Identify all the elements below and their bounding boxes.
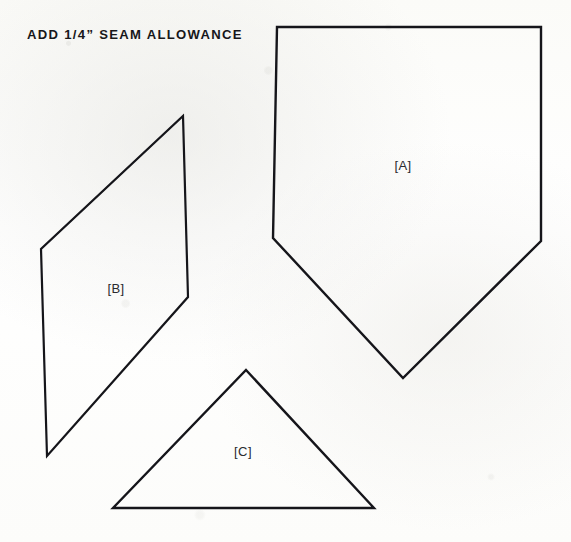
pattern-pieces-drawing (0, 0, 571, 542)
pattern-sheet: ADD 1/4” SEAM ALLOWANCE [A] [B] [C] (0, 0, 571, 542)
pattern-piece-b-label: [B] (107, 281, 124, 296)
pattern-piece-a-outline (273, 27, 541, 378)
pattern-piece-c-outline (113, 370, 374, 508)
pattern-piece-c-label: [C] (234, 444, 252, 459)
pattern-piece-a-label: [A] (394, 158, 411, 173)
